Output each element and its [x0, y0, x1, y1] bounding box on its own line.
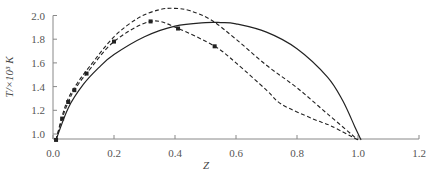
- x-tick-label: 1.2: [412, 147, 426, 159]
- svg-text:T/×10³ K: T/×10³ K: [3, 56, 15, 98]
- x-tick-label: 0.2: [107, 147, 121, 159]
- x-tick-label: 0.8: [290, 147, 304, 159]
- y-tick-label: 1.2: [31, 104, 45, 116]
- y-tick-label: 1.4: [31, 81, 45, 93]
- data-point-marker: [112, 40, 116, 44]
- x-tick-label: 0.4: [168, 147, 182, 159]
- data-point-marker: [72, 88, 76, 92]
- data-point-marker: [213, 44, 217, 48]
- y-tick-label: 1.6: [31, 57, 45, 69]
- chart-ticks: 0.00.20.40.60.81.01.21.01.21.41.61.82.0: [31, 10, 426, 160]
- series-line-2: [56, 21, 358, 140]
- x-tick-label: 1.0: [351, 147, 365, 159]
- data-point-marker: [176, 27, 180, 31]
- data-point-marker: [149, 19, 153, 23]
- series-line-0: [56, 22, 361, 140]
- figure-caption-cropped: [60, 174, 390, 180]
- y-tick-label: 1.8: [31, 33, 45, 45]
- data-point-marker: [54, 138, 58, 142]
- chart-axes: [53, 16, 419, 140]
- x-tick-label: 0.0: [46, 147, 60, 159]
- series-line-1: [56, 8, 358, 140]
- data-point-marker: [85, 72, 89, 76]
- data-point-marker: [60, 117, 64, 121]
- y-axis-label: T/×10³ K: [3, 56, 15, 98]
- y-tick-label: 1.0: [31, 128, 45, 140]
- chart-series: [54, 8, 361, 142]
- y-tick-label: 2.0: [31, 10, 45, 22]
- x-axis-label: Z: [203, 159, 210, 171]
- x-tick-label: 0.6: [229, 147, 243, 159]
- data-point-marker: [66, 100, 70, 104]
- chart-plot-area: 0.00.20.40.60.81.01.21.01.21.41.61.82.0 …: [0, 0, 433, 180]
